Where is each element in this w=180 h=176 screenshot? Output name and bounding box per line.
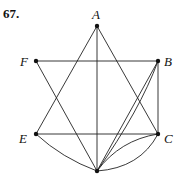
- vertex-E: [34, 132, 38, 136]
- vertex-C: [156, 132, 160, 136]
- edge-E-G: [36, 134, 97, 171]
- vertex-label-B: B: [164, 54, 172, 69]
- vertex-label-C: C: [164, 131, 173, 146]
- vertex-A: [95, 24, 99, 28]
- vertex-label-A: A: [91, 7, 100, 22]
- edge-C-G: [97, 134, 158, 171]
- vertex-B: [156, 59, 160, 63]
- edge-A-C: [97, 26, 158, 134]
- vertex-label-F: F: [19, 54, 29, 69]
- edge-B-G: [97, 61, 158, 171]
- vertex-label-E: E: [18, 131, 27, 146]
- edge-A-E: [36, 26, 97, 134]
- graph-diagram: AFBEC: [0, 0, 180, 176]
- vertex-F: [34, 59, 38, 63]
- edge-C-G: [97, 134, 158, 171]
- edge-F-G: [36, 61, 97, 171]
- vertex-G: [95, 169, 99, 173]
